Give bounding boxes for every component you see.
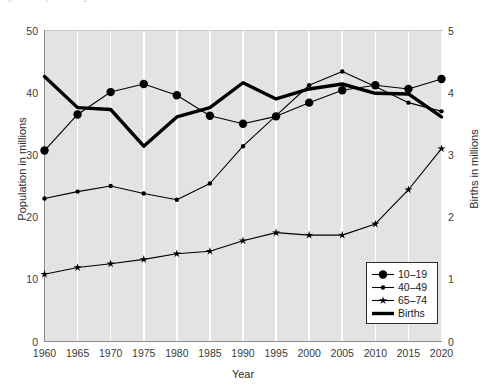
legend-item-65-74: 65–74 <box>371 293 432 306</box>
series-line <box>45 77 442 147</box>
data-point <box>42 196 46 200</box>
series-40-49 <box>42 69 443 202</box>
legend-item-label: Births <box>398 307 425 319</box>
legend-item-label: 40–49 <box>398 281 427 293</box>
data-point <box>73 110 81 118</box>
series-10-19 <box>40 75 445 155</box>
data-point <box>75 189 79 193</box>
data-point <box>437 75 445 83</box>
data-point <box>208 181 212 185</box>
data-point <box>140 80 148 88</box>
series-line <box>45 72 442 200</box>
data-point <box>439 109 443 113</box>
data-point <box>338 86 346 94</box>
data-point <box>206 112 214 120</box>
series-births <box>45 77 442 147</box>
data-point <box>272 228 280 236</box>
legend-item-40-49: 40–49 <box>371 280 432 293</box>
data-point <box>340 69 344 73</box>
chart-legend: 10–1940–4965–74Births <box>366 262 438 324</box>
legend-key-icon <box>371 306 395 319</box>
data-point <box>239 120 247 128</box>
data-point <box>108 184 112 188</box>
data-point <box>173 91 181 99</box>
chart-figure: Figure 3. Population aged 10–19, 40–49 a… <box>0 0 490 390</box>
data-point <box>404 85 412 93</box>
series-line <box>45 149 442 275</box>
data-point <box>106 88 114 96</box>
legend-item-10-19: 10–19 <box>371 267 432 280</box>
data-point <box>175 197 179 201</box>
data-point <box>274 114 278 118</box>
legend-item-births: Births <box>371 306 432 319</box>
legend-key-icon <box>371 293 395 306</box>
data-point <box>373 84 377 88</box>
data-point <box>406 100 410 104</box>
legend-key-icon <box>371 267 395 280</box>
series-65-74 <box>40 144 445 277</box>
data-point <box>241 144 245 148</box>
data-point <box>437 144 445 152</box>
data-point <box>40 146 48 154</box>
legend-item-label: 65–74 <box>398 294 427 306</box>
data-point <box>307 83 311 87</box>
data-point <box>142 191 146 195</box>
data-point <box>305 98 313 106</box>
series-layer <box>0 0 490 390</box>
legend-item-label: 10–19 <box>398 268 427 280</box>
legend-key-icon <box>371 280 395 293</box>
